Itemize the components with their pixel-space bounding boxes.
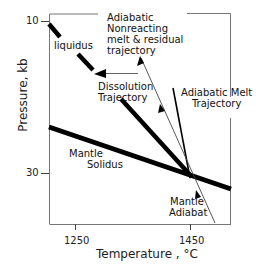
y-tick-10: 10 xyxy=(26,15,39,26)
y-tick-30: 30 xyxy=(26,167,39,178)
nonreacting-arrow-icon xyxy=(137,56,144,66)
liquidus-label: liquidus xyxy=(54,40,93,51)
y-axis-label: Pressure, kb xyxy=(16,50,30,140)
dissolution-arrow-icon xyxy=(94,69,106,78)
x-tick-1450: 1450 xyxy=(179,235,204,246)
mantle-adiabat-label: Mantle Adiabat xyxy=(169,196,207,218)
nonreacting-label: Adiabatic Nonreacting melt & residual tr… xyxy=(107,12,183,56)
dissolution-label: Dissolution Trajectory xyxy=(98,81,153,103)
adiabatic-melt-label: Adiabatic Melt Trajectory xyxy=(181,87,252,109)
x-tick-1250: 1250 xyxy=(64,235,89,246)
x-axis-label: Temperature , °C xyxy=(96,247,198,261)
mantle-solidus-label: Mantle Solidus xyxy=(69,148,123,170)
